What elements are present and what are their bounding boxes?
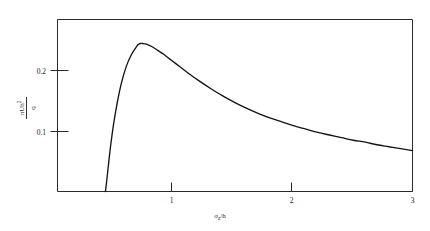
y-axis-title-denominator: q: [29, 106, 37, 110]
y-axis-tick-labels: 0.2 0.1: [37, 67, 47, 137]
y-tick-label-0-1: 0.1: [37, 128, 47, 137]
y-axis-ticks: [51, 71, 69, 132]
figure-container: 1 2 3 0.2 0.1 πUh2 q σz/h: [0, 0, 430, 231]
y-tick-label-0-2: 0.2: [37, 67, 47, 76]
svg-text:σz/h: σz/h: [214, 212, 226, 221]
x-axis-title-denominator: h: [222, 212, 226, 220]
x-tick-label-3: 3: [411, 196, 415, 205]
plot-frame: [58, 20, 413, 192]
x-axis-title: σz/h: [214, 212, 226, 221]
chart-canvas: 1 2 3 0.2 0.1 πUh2 q σz/h: [0, 0, 430, 231]
x-tick-label-2: 2: [290, 196, 294, 205]
y-axis-title-numerator: πUh2: [16, 100, 26, 115]
data-curve-line: [105, 43, 412, 191]
x-axis-ticks: [172, 183, 413, 192]
x-axis-tick-labels: 1 2 3: [170, 196, 415, 205]
x-tick-label-1: 1: [170, 196, 174, 205]
y-axis-title-num-exp: 2: [16, 100, 22, 103]
y-axis-title: πUh2 q: [16, 97, 37, 119]
